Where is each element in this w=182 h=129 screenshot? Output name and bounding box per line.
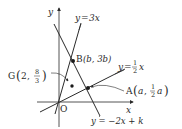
point-a-y-num: 1 bbox=[151, 83, 155, 91]
point-g-close-paren: ) bbox=[42, 69, 47, 83]
point-a-y-den: 2 bbox=[151, 91, 155, 99]
point-a-x: a bbox=[138, 86, 143, 96]
point-a-y-var: a bbox=[157, 86, 162, 96]
label-half-x-var: x bbox=[139, 62, 144, 72]
point-a bbox=[86, 86, 90, 90]
label-half-x-lhs: y bbox=[117, 62, 124, 72]
point-a-close-paren: ) bbox=[164, 84, 169, 98]
point-g-open-paren: ( bbox=[16, 69, 21, 83]
label-half-x-eq: = bbox=[124, 62, 132, 72]
label-neg2x-plus-k: y = −2x + k bbox=[90, 116, 143, 126]
label-half-x-den: 2 bbox=[133, 67, 137, 75]
point-a-comma: , bbox=[144, 86, 147, 96]
label-y-equals-3x-rhs: 3x bbox=[89, 13, 100, 23]
point-g-comma: , bbox=[27, 71, 30, 81]
coordinate-diagram: y x O y = 3x B (b, 3b) y = 1 2 x A ( a ,… bbox=[0, 0, 182, 129]
point-g-name: G bbox=[8, 71, 15, 81]
x-axis-label: x bbox=[126, 105, 131, 115]
label-half-x-num: 1 bbox=[133, 59, 137, 67]
y-axis-label: y bbox=[47, 7, 54, 17]
origin-label: O bbox=[60, 104, 67, 114]
label-y-equals-3x-eq: = bbox=[81, 13, 89, 23]
leader-line-a bbox=[91, 85, 124, 91]
point-g-y-den: 3 bbox=[35, 77, 39, 85]
point-b-coords: (b, 3b) bbox=[83, 54, 111, 64]
point-g-x: 2 bbox=[21, 71, 27, 81]
point-g-y-num: 8 bbox=[35, 68, 39, 76]
point-a-open-paren: ( bbox=[133, 84, 138, 98]
point-a-name: A bbox=[125, 86, 133, 96]
label-y-equals-3x-lhs: y bbox=[74, 13, 81, 23]
point-b-name: B bbox=[76, 54, 83, 64]
point-g bbox=[70, 84, 73, 87]
line-y-equals-half-x bbox=[40, 69, 125, 112]
point-b bbox=[71, 59, 75, 63]
